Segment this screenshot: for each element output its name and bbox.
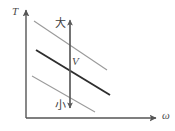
- x-axis-label: ω: [162, 110, 170, 121]
- label-small: 小: [55, 100, 66, 111]
- label-large: 大: [55, 18, 66, 29]
- figure-container: T ω V 大 小: [0, 0, 175, 131]
- figure-canvas: [0, 0, 175, 131]
- v-arrow-label: V: [72, 56, 79, 67]
- y-axis-label: T: [12, 6, 18, 17]
